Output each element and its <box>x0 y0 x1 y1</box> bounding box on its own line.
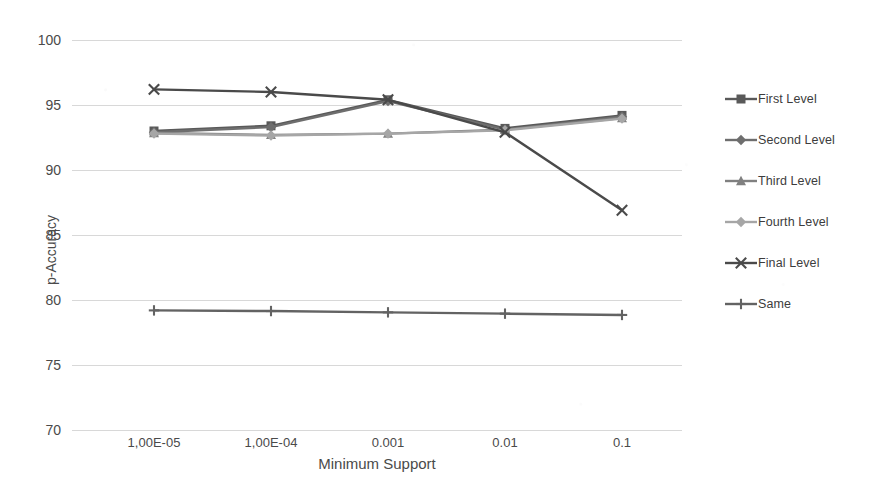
legend-item-label: Same <box>758 297 791 311</box>
series-line <box>154 89 622 210</box>
legend-item-label: Third Level <box>758 174 821 188</box>
y-axis-tick-label: 100 <box>38 32 61 48</box>
legend-x-marker-icon <box>724 256 758 270</box>
legend-item-first-level[interactable]: First Level <box>724 78 874 119</box>
x-axis-tick-label: 0.01 <box>492 435 517 450</box>
clipped-chart-title <box>0 0 880 14</box>
y-axis-tick-label: 90 <box>45 162 61 178</box>
legend-item-label: Final Level <box>758 256 820 270</box>
data-point-plus-marker <box>736 298 746 308</box>
data-point-plus-marker <box>149 305 159 315</box>
legend-diamond-marker-icon <box>724 215 758 229</box>
legend-item-second-level[interactable]: Second Level <box>724 119 874 160</box>
series-same <box>149 305 627 320</box>
data-point-plus-marker <box>617 310 627 320</box>
chart-figure: p-Accuracy 100959085807570 1,00E-051,00E… <box>0 0 880 499</box>
legend-triangle-marker-icon <box>724 174 758 188</box>
data-point-diamond-marker <box>736 216 746 226</box>
y-axis-tick-label: 70 <box>45 422 61 438</box>
chart-legend: First LevelSecond LevelThird LevelFourth… <box>724 78 874 324</box>
legend-item-third-level[interactable]: Third Level <box>724 160 874 201</box>
legend-diamond-marker-icon <box>724 133 758 147</box>
y-axis-title: p-Accuracy <box>43 214 59 284</box>
x-axis-tick-label: 1,00E-04 <box>245 435 298 450</box>
legend-item-final-level[interactable]: Final Level <box>724 242 874 283</box>
data-point-plus-marker <box>383 307 393 317</box>
data-point-diamond-marker <box>736 134 746 144</box>
y-axis-tick-label: 80 <box>45 292 61 308</box>
x-axis-tick-label: 0.001 <box>372 435 405 450</box>
gridline <box>72 430 682 431</box>
legend-item-fourth-level[interactable]: Fourth Level <box>724 201 874 242</box>
legend-item-same[interactable]: Same <box>724 283 874 324</box>
legend-item-label: Fourth Level <box>758 215 829 229</box>
series-layer <box>72 40 682 430</box>
y-axis-tick-label: 95 <box>45 97 61 113</box>
data-point-diamond-marker <box>266 130 276 140</box>
x-axis-title: Minimum Support <box>72 455 682 472</box>
legend-item-label: Second Level <box>758 133 835 147</box>
data-point-square-marker <box>737 94 746 103</box>
data-point-plus-marker <box>266 306 276 316</box>
plot-area: 100959085807570 1,00E-051,00E-040.0010.0… <box>72 40 682 430</box>
legend-square-marker-icon <box>724 92 758 106</box>
legend-plus-marker-icon <box>724 297 758 311</box>
y-axis-tick-label: 75 <box>45 357 61 373</box>
data-point-plus-marker <box>500 308 510 318</box>
x-axis-tick-label: 1,00E-05 <box>128 435 181 450</box>
y-axis-tick-label: 85 <box>45 227 61 243</box>
x-axis-tick-label: 0.1 <box>613 435 631 450</box>
legend-item-label: First Level <box>758 92 817 106</box>
data-point-x-marker <box>617 205 627 215</box>
